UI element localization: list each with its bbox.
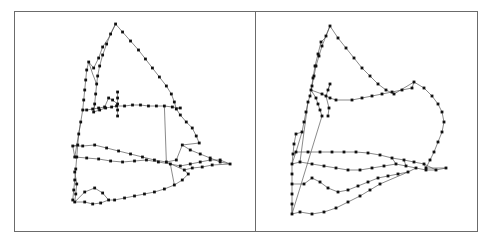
- right-edges: [292, 26, 446, 214]
- right-panel-graph: [256, 12, 477, 231]
- left-nodes: [71, 23, 231, 206]
- right-panel: [256, 12, 477, 231]
- figure-root: [0, 0, 488, 246]
- right-nodes: [291, 25, 448, 216]
- left-panel-graph: [15, 12, 255, 231]
- left-edges: [73, 24, 230, 204]
- left-panel: [15, 12, 256, 231]
- figure-frame: [14, 11, 478, 232]
